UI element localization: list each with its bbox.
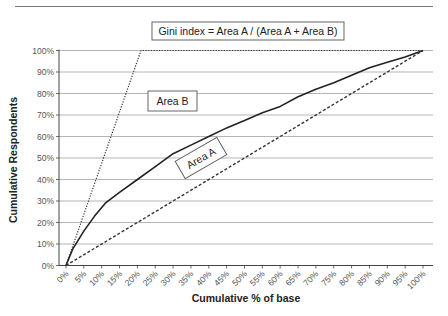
x-axis-ticks: 0%5%10%15%20%25%30%35%40%45%50%55%60%65%… — [55, 266, 428, 292]
y-tick-label: 40% — [37, 175, 54, 185]
x-tick-label: 85% — [355, 269, 374, 288]
x-tick-label: 75% — [319, 269, 338, 288]
x-tick-label: 20% — [123, 269, 142, 288]
x-tick-label: 90% — [373, 269, 392, 288]
x-tick-label: 40% — [194, 269, 213, 288]
y-tick-label: 50% — [37, 153, 54, 163]
x-tick-label: 65% — [283, 269, 302, 288]
x-tick-label: 100% — [405, 269, 428, 292]
y-tick-label: 0% — [42, 261, 55, 271]
annotation-area-b: Area B — [148, 91, 197, 111]
gridlines — [59, 51, 433, 245]
x-tick-label: 70% — [301, 269, 320, 288]
y-tick-label: 90% — [37, 67, 54, 77]
y-tick-label: 10% — [37, 239, 54, 249]
x-tick-label: 35% — [176, 269, 195, 288]
y-tick-label: 60% — [37, 132, 54, 142]
x-tick-label: 55% — [248, 269, 267, 288]
x-tick-label: 30% — [158, 269, 177, 288]
x-tick-label: 15% — [105, 269, 124, 288]
x-tick-label: 25% — [141, 269, 160, 288]
x-tick-label: 45% — [212, 269, 231, 288]
y-tick-label: 100% — [32, 46, 54, 56]
y-axis-ticks: 0%10%20%30%40%50%60%70%80%90%100% — [32, 46, 59, 271]
y-tick-label: 80% — [37, 89, 54, 99]
x-tick-label: 5% — [72, 269, 88, 285]
x-tick-label: 50% — [230, 269, 249, 288]
annotation-gini: Gini index = Area A / (Area A + Area B) — [152, 22, 344, 40]
y-tick-label: 30% — [37, 196, 54, 206]
gini-chart: 0%10%20%30%40%50%60%70%80%90%100% 0%5%10… — [0, 0, 448, 316]
annotation-text: Gini index = Area A / (Area A + Area B) — [158, 25, 337, 37]
y-tick-label: 70% — [37, 110, 54, 120]
x-tick-label: 0% — [55, 269, 71, 285]
x-tick-label: 10% — [87, 269, 106, 288]
annotations: Gini index = Area A / (Area A + Area B)A… — [148, 22, 344, 179]
x-axis-title: Cumulative % of base — [192, 292, 301, 304]
x-tick-label: 80% — [337, 269, 356, 288]
y-axis-title: Cumulative Respondents — [7, 97, 19, 223]
y-tick-label: 20% — [37, 218, 54, 228]
x-tick-label: 60% — [266, 269, 285, 288]
annotation-area-a: Area A — [175, 137, 227, 178]
annotation-text: Area B — [156, 95, 188, 107]
